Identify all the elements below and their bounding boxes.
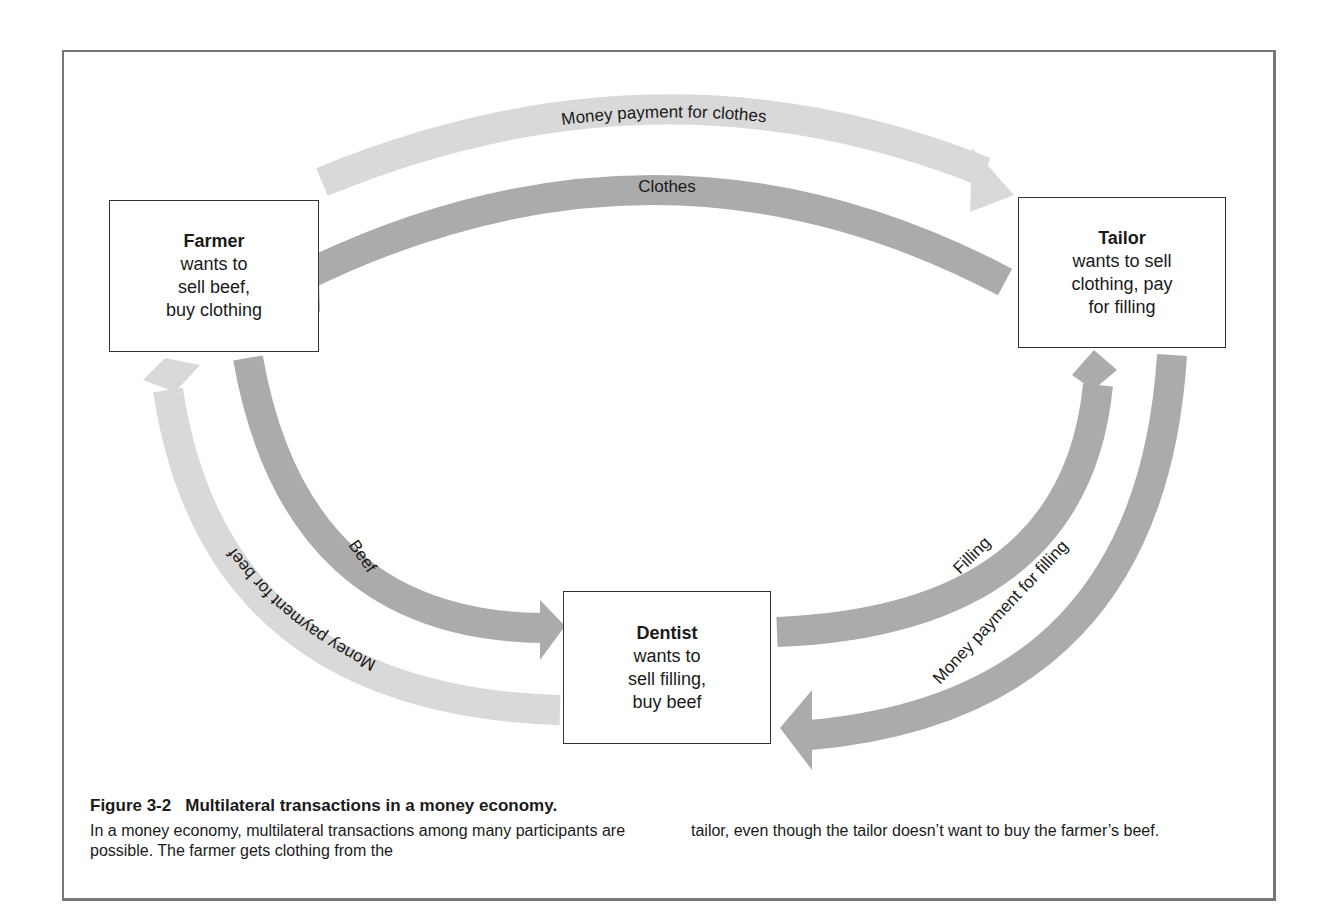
label-clothes: Clothes — [638, 177, 696, 196]
node-dentist-title: Dentist — [636, 622, 697, 645]
node-tailor-title: Tailor — [1098, 227, 1146, 250]
node-farmer: Farmer wants to sell beef, buy clothing — [109, 200, 319, 352]
figure-caption: Figure 3-2Multilateral transactions in a… — [90, 795, 1260, 817]
node-farmer-title: Farmer — [183, 230, 244, 253]
node-dentist-desc: wants to sell filling, buy beef — [628, 645, 706, 714]
figure-title: Figure 3-2Multilateral transactions in a… — [90, 795, 1260, 817]
arrow-clothes — [268, 190, 1005, 312]
figure-title-text: Multilateral transactions in a money eco… — [185, 796, 557, 815]
node-dentist: Dentist wants to sell filling, buy beef — [563, 591, 771, 744]
node-tailor: Tailor wants to sell clothing, pay for f… — [1018, 197, 1226, 348]
caption-column-1: In a money economy, multilateral transac… — [90, 821, 660, 861]
caption-column-2: tailor, even though the tailor doesn’t w… — [691, 821, 1261, 841]
flow-diagram: Money payment for clothes Clothes Beef M… — [0, 0, 1335, 912]
node-farmer-desc: wants to sell beef, buy clothing — [166, 253, 262, 322]
arrow-filling — [777, 350, 1117, 632]
node-tailor-desc: wants to sell clothing, pay for filling — [1071, 250, 1172, 319]
figure-number: Figure 3-2 — [90, 796, 171, 815]
